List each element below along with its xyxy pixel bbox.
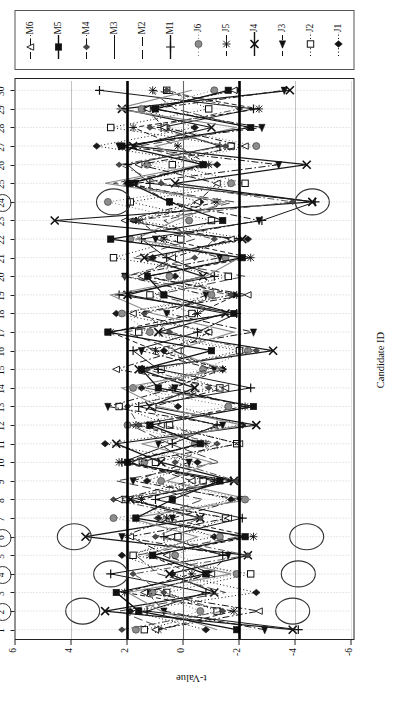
legend-item-J3[interactable]: J3 — [267, 11, 295, 69]
x-tick-mark — [10, 332, 14, 333]
x-tick-mark — [10, 481, 14, 482]
x-tick-mark — [10, 351, 14, 352]
x-tick-mark — [10, 555, 14, 556]
legend-item-J4[interactable]: J4 — [239, 11, 267, 69]
x-tick-mark — [10, 146, 14, 147]
legend-item-M4[interactable]: M4 — [71, 11, 99, 69]
legend-marker-circle-gray-icon — [192, 34, 202, 56]
x-tick-mark — [10, 369, 14, 370]
x-tick-mark — [10, 425, 14, 426]
y-axis-title: t-Value — [176, 673, 206, 684]
chart-page: 6420-2-4-6 12345678910111213141516171819… — [0, 0, 399, 702]
x-tick-mark — [10, 630, 14, 631]
y-tick-mark — [126, 640, 127, 645]
highlight-circle-candidate-2 — [0, 603, 11, 621]
plot-svg — [15, 81, 351, 639]
legend-item-M6[interactable]: M6 — [15, 11, 43, 69]
legend-item-J6[interactable]: J6 — [183, 11, 211, 69]
y-tick-label: 4 — [63, 648, 73, 674]
x-tick-mark — [10, 165, 14, 166]
y-tick-mark — [14, 640, 15, 645]
x-tick-mark — [10, 90, 14, 91]
x-tick-mark — [10, 407, 14, 408]
legend-marker-plus-icon — [164, 37, 174, 59]
legend: J1J2J3J4J5J6M1M2M3M4M5M6 — [14, 10, 354, 70]
legend-marker-x-thick-icon — [248, 34, 258, 56]
legend-item-M5[interactable]: M5 — [43, 11, 71, 69]
y-tick-mark — [294, 640, 295, 645]
x-tick-mark — [10, 444, 14, 445]
legend-label: J4 — [248, 24, 258, 32]
x-axis-title: Candidate ID — [374, 80, 385, 640]
x-tick-mark — [10, 258, 14, 259]
plot-area — [14, 78, 354, 640]
y-tick-label: 6 — [7, 648, 17, 674]
x-tick-mark — [10, 221, 14, 222]
x-tick-mark — [10, 593, 14, 594]
legend-marker-triangle-left-filled-icon — [276, 34, 286, 56]
highlight-circle-candidate-6 — [0, 529, 11, 547]
x-tick-mark — [10, 295, 14, 296]
x-tick-mark — [10, 239, 14, 240]
legend-label: M4 — [80, 21, 90, 34]
x-tick-mark — [10, 388, 14, 389]
legend-marker-diamond-filled-icon — [332, 34, 342, 56]
x-tick-mark — [10, 276, 14, 277]
legend-marker-square-open-icon — [304, 34, 314, 56]
legend-label: M5 — [52, 21, 62, 34]
legend-item-J2[interactable]: J2 — [295, 11, 323, 69]
y-tick-label: -4 — [287, 648, 297, 674]
legend-marker-triangle-open-icon — [24, 37, 34, 59]
highlight-circle-candidate-24 — [0, 194, 11, 212]
legend-marker-square-filled-icon — [52, 37, 62, 59]
legend-label: M2 — [136, 21, 146, 34]
x-tick-mark — [10, 500, 14, 501]
y-tick-label: -6 — [343, 648, 353, 674]
y-tick-label: 0 — [175, 648, 185, 674]
y-tick-label: 2 — [119, 648, 129, 674]
y-tick-mark — [182, 640, 183, 645]
x-tick-mark — [10, 462, 14, 463]
legend-label: J2 — [304, 24, 314, 32]
y-tick-mark — [350, 640, 351, 645]
y-tick-label: -2 — [231, 648, 241, 674]
x-tick-mark — [10, 518, 14, 519]
legend-marker-asterisk-icon — [220, 34, 230, 56]
legend-label: M6 — [24, 21, 34, 34]
annotation-outlier-candidate-6-neg — [289, 524, 323, 550]
legend-marker-diamond-small-icon — [80, 37, 90, 59]
x-tick-label-30: 30 — [0, 80, 5, 102]
legend-label: J1 — [332, 24, 342, 32]
legend-label: J6 — [192, 24, 202, 32]
x-tick-mark — [10, 183, 14, 184]
legend-label: J5 — [220, 24, 230, 32]
rotated-figure-container: 6420-2-4-6 12345678910111213141516171819… — [0, 0, 399, 702]
x-tick-mark — [10, 314, 14, 315]
legend-label: J3 — [276, 24, 286, 32]
legend-label: M1 — [164, 21, 174, 34]
x-tick-mark — [10, 109, 14, 110]
legend-item-M2[interactable]: M2 — [127, 11, 155, 69]
legend-item-M3[interactable]: M3 — [99, 11, 127, 69]
annotation-outlier-candidate-24-high — [96, 189, 130, 215]
legend-label: M3 — [108, 21, 118, 34]
y-tick-mark — [238, 640, 239, 645]
x-tick-mark — [10, 128, 14, 129]
legend-item-J1[interactable]: J1 — [323, 11, 351, 69]
y-tick-mark — [70, 640, 71, 645]
legend-item-J5[interactable]: J5 — [211, 11, 239, 69]
highlight-circle-candidate-4 — [0, 566, 11, 584]
legend-item-M1[interactable]: M1 — [155, 11, 183, 69]
legend-marker-none-icon — [108, 37, 118, 59]
legend-marker-none-icon — [136, 37, 146, 59]
